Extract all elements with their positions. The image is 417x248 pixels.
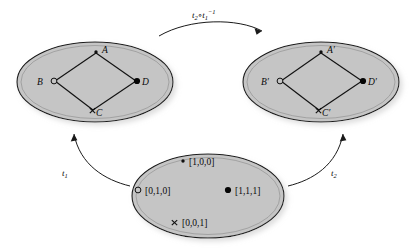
bottom-point-100-marker bbox=[181, 159, 184, 162]
left-point-a-label: A bbox=[101, 45, 108, 55]
transition-map-arrow: t2∘t1−1 bbox=[159, 8, 262, 36]
bottom-point-001-label: [0,0,1] bbox=[182, 218, 207, 228]
bottom-point-100-label: [1,0,0] bbox=[189, 157, 214, 167]
transition-label-t1-sub: 1 bbox=[205, 14, 208, 21]
diagram-root: A B D C A′ bbox=[0, 0, 417, 248]
left-point-b-marker bbox=[51, 78, 57, 84]
transition-label-t1-sup: −1 bbox=[208, 8, 216, 15]
t1-arrow-path bbox=[74, 134, 130, 186]
diagram-canvas: A B D C A′ bbox=[0, 0, 417, 248]
left-point-d-label: D bbox=[141, 77, 149, 87]
right-point-b-prime-label: B′ bbox=[261, 77, 270, 87]
t2-arrow-label: t2 bbox=[331, 168, 338, 179]
left-point-d-marker bbox=[134, 78, 140, 84]
t2-arrow: t2 bbox=[288, 134, 346, 186]
left-chart-region: A B D C bbox=[17, 42, 173, 122]
bottom-point-010-marker bbox=[135, 187, 141, 193]
t2-arrow-head bbox=[340, 134, 347, 141]
t1-arrow-head bbox=[71, 134, 78, 141]
bottom-point-111-marker bbox=[225, 187, 231, 193]
right-point-d-prime-marker bbox=[360, 78, 366, 84]
bottom-point-111-label: [1,1,1] bbox=[235, 186, 260, 196]
t2-label-sub: 2 bbox=[334, 172, 338, 179]
right-point-a-prime-marker bbox=[319, 50, 322, 53]
t1-label-sub: 1 bbox=[65, 172, 68, 179]
bottom-space-region: [1,0,0] [0,1,0] [1,1,1] [0,0,1] bbox=[132, 154, 284, 238]
right-point-d-prime-label: D′ bbox=[367, 77, 378, 87]
left-point-c-label: C bbox=[96, 108, 103, 118]
right-point-b-prime-marker bbox=[277, 78, 283, 84]
transition-map-arrow-path bbox=[159, 22, 262, 36]
t1-arrow-label: t1 bbox=[62, 168, 68, 179]
left-point-b-label: B bbox=[37, 77, 43, 87]
bottom-point-010-label: [0,1,0] bbox=[145, 186, 170, 196]
right-point-a-prime-label: A′ bbox=[326, 45, 336, 55]
bottom-space-ellipse bbox=[132, 154, 284, 238]
right-chart-region: A′ B′ D′ C′ bbox=[243, 42, 399, 122]
t1-arrow: t1 bbox=[62, 134, 130, 186]
left-point-a-marker bbox=[94, 50, 97, 53]
transition-map-arrow-label: t2∘t1−1 bbox=[192, 8, 215, 21]
right-point-c-prime-label: C′ bbox=[322, 108, 331, 118]
